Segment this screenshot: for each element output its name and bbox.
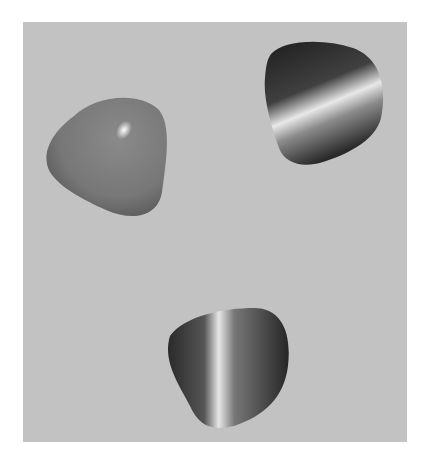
glossy-rounded-triangle	[44, 92, 170, 220]
brushed-metal-triangle-bottom	[164, 306, 292, 432]
brushed-metal-triangle-top-right	[263, 38, 385, 170]
